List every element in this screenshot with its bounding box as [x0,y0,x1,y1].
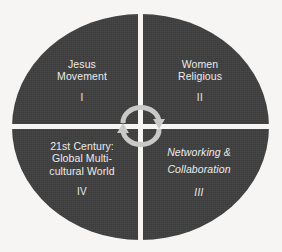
quadrant-iv-numeral: IV [77,186,87,198]
cycle-diagram: Jesus Movement I Women Religious II Netw… [0,0,282,252]
quadrant-iii-numeral: III [194,187,204,199]
quadrant-iv-label: 21st Century: Global Multi- cultural Wor… [49,140,114,177]
quadrant-i-label: Jesus Movement [57,58,107,83]
quadrant-iii-label: Networking & Collaboration [167,144,231,178]
cyclical-arrows-icon [114,96,168,156]
quadrant-i-numeral: I [80,92,83,104]
quadrant-ii-label: Women Religious [178,58,222,83]
quadrant-ii-numeral: II [197,92,203,104]
